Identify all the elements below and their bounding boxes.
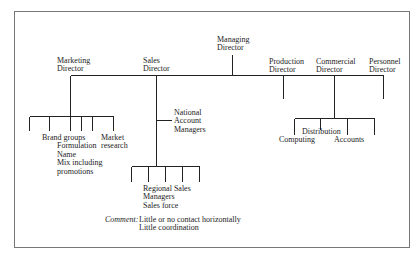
label-line: Director	[143, 65, 170, 73]
node-computing: Computing	[279, 136, 315, 144]
label-line: Managers	[174, 126, 206, 134]
node-production-director: Production Director	[269, 58, 304, 75]
node-sales-director: Sales Director	[143, 57, 170, 74]
label-line: Sales force	[143, 202, 191, 210]
label-line: Director	[269, 66, 304, 74]
label-line: Director	[217, 44, 249, 52]
node-managing-director: Managing Director	[217, 36, 249, 53]
node-accounts: Accounts	[334, 136, 364, 144]
comment-text: Little or no contact horizontally Little…	[139, 216, 241, 233]
node-personnel-director: Personnel Director	[369, 58, 401, 75]
label-line: Director	[316, 66, 356, 74]
node-market-research: Market research	[101, 134, 128, 151]
node-marketing-director: Marketing Director	[57, 57, 90, 74]
label-line: Accounts	[334, 136, 364, 144]
comment-label: Comment:	[105, 216, 138, 224]
node-regional-sales: Regional Sales Managers Sales force	[143, 185, 191, 210]
node-national-account-managers: National Account Managers	[174, 109, 206, 134]
label-line: research	[101, 142, 128, 150]
label-line: Computing	[279, 136, 315, 144]
comment-line: Little coordination	[139, 224, 241, 232]
label-line: promotions	[42, 168, 103, 176]
label-line: Director	[369, 66, 401, 74]
node-brand-groups: Brand groups Formulation Name Mix includ…	[42, 134, 103, 176]
label-line: Director	[57, 65, 90, 73]
node-commercial-director: Commercial Director	[316, 58, 356, 75]
